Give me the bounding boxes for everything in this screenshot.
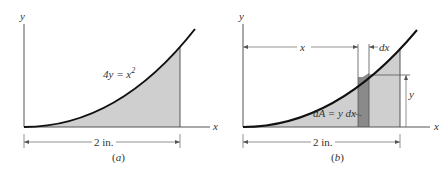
caption-b: (b)	[331, 151, 344, 164]
y-height-label: y	[408, 88, 414, 100]
y-axis-label: y	[238, 10, 244, 22]
y-height-dimension: y	[404, 75, 414, 127]
x-axis-label: x	[433, 120, 439, 132]
shaded-area	[24, 47, 180, 127]
dimension-label: 2 in.	[313, 136, 333, 148]
x-distance-label: x	[299, 41, 305, 53]
dimension-label: 2 in.	[94, 136, 114, 148]
figure-a: y x 4y = x2 2 in. (a)	[19, 10, 218, 164]
dx-label: dx	[379, 41, 390, 53]
dimension-2in: 2 in.	[243, 134, 400, 148]
caption-a: (a)	[112, 151, 125, 164]
equation-label: 4y = x2	[103, 66, 135, 80]
x-distance-dimension: x	[243, 41, 358, 53]
x-axis-label: x	[212, 120, 218, 132]
dimension-2in: 2 in.	[24, 134, 180, 148]
diagram-canvas: y x 4y = x2 2 in. (a)	[0, 0, 448, 177]
dx-dimension: dx	[369, 41, 390, 53]
element-label: dA = y dx	[313, 107, 356, 119]
figure-b: x dx y dA = y dx y x 2 in. (b)	[238, 10, 439, 164]
y-axis-label: y	[19, 10, 25, 22]
